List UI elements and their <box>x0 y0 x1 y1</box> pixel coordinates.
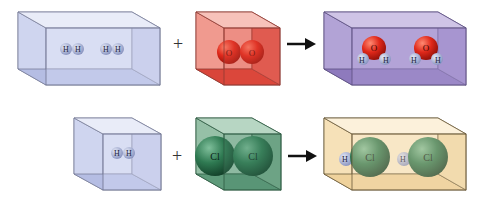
plus-sign: + <box>173 34 183 54</box>
svg-text:H: H <box>114 149 120 158</box>
svg-text:O: O <box>371 43 378 53</box>
plus-sign: + <box>172 146 182 166</box>
h2o-box: O H H O H H <box>324 12 466 85</box>
svg-text:H: H <box>342 155 348 164</box>
reaction-arrow <box>288 150 317 162</box>
svg-text:H: H <box>383 56 389 65</box>
h2-box-large: H H H H <box>18 12 160 85</box>
svg-text:H: H <box>126 149 132 158</box>
cl2-cube: Cl Cl <box>195 118 281 190</box>
svg-text:H: H <box>115 45 121 54</box>
svg-text:H: H <box>411 56 417 65</box>
hcl-box: H Cl H Cl <box>324 118 466 190</box>
svg-text:H: H <box>103 45 109 54</box>
svg-text:H: H <box>75 45 81 54</box>
h2-cube: H H <box>74 118 161 190</box>
o2-cube: O O <box>196 12 280 85</box>
svg-text:H: H <box>63 45 69 54</box>
svg-text:H: H <box>359 56 365 65</box>
svg-text:H: H <box>435 56 441 65</box>
reaction-arrow <box>287 38 316 50</box>
svg-text:Cl: Cl <box>210 151 220 162</box>
svg-text:O: O <box>423 43 430 53</box>
reaction-diagram: H H H H + O O <box>0 0 487 201</box>
